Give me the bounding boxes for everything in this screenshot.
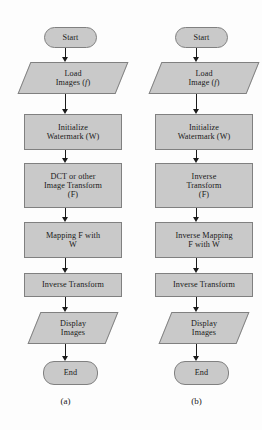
- node-b-2-process: InitializeWatermark (W): [155, 114, 253, 150]
- node-b-3-process: InverseTransform(F): [155, 163, 253, 208]
- node-label: Mapping F withW: [44, 231, 102, 249]
- node-a-2-process: InitializeWatermark (W): [24, 114, 122, 150]
- node-a-0-terminator: Start: [44, 27, 97, 48]
- node-label: DisplayImages: [189, 319, 219, 337]
- node-label: InverseTransform(F): [184, 172, 223, 200]
- node-label: Start: [192, 33, 212, 42]
- node-label: DCT or otherImage Transform(F): [42, 172, 104, 200]
- node-a-4-process: Mapping F withW: [24, 222, 122, 258]
- node-label: Inverse MappingF with W: [173, 231, 234, 249]
- connector-line: [65, 94, 66, 110]
- node-a-6-io: DisplayImages: [34, 312, 112, 344]
- node-label: DisplayImages: [58, 319, 88, 337]
- flowchart-figure: StartLoadImages (f)InitializeWatermark (…: [0, 0, 262, 430]
- node-b-4-process: Inverse MappingF with W: [155, 222, 253, 258]
- node-b-5-process: Inverse Transform: [155, 273, 253, 297]
- node-label: InitializeWatermark (W): [45, 123, 102, 141]
- node-b-1-io: LoadImage (f): [155, 62, 253, 94]
- flowchart-b: StartLoadImage (f)InitializeWatermark (W…: [131, 0, 262, 430]
- node-b-7-terminator: End: [174, 361, 229, 385]
- node-label: InitializeWatermark (W): [176, 123, 233, 141]
- node-b-6-io: DisplayImages: [165, 312, 243, 344]
- node-label: Inverse Transform: [171, 280, 237, 289]
- node-label: LoadImages (f): [54, 69, 92, 87]
- node-b-0-terminator: Start: [175, 27, 228, 48]
- node-label: LoadImage (f): [186, 69, 221, 87]
- node-label: End: [62, 368, 80, 377]
- node-a-1-io: LoadImages (f): [24, 62, 122, 94]
- chart-caption-a: (a): [0, 396, 131, 406]
- node-label: End: [193, 368, 211, 377]
- node-label: Inverse Transform: [40, 280, 106, 289]
- connector-line: [196, 94, 197, 110]
- node-a-3-process: DCT or otherImage Transform(F): [24, 163, 122, 208]
- flowchart-a: StartLoadImages (f)InitializeWatermark (…: [0, 0, 131, 430]
- node-a-5-process: Inverse Transform: [24, 273, 122, 297]
- node-label: Start: [61, 33, 81, 42]
- chart-caption-b: (b): [131, 396, 262, 406]
- node-a-7-terminator: End: [43, 361, 98, 385]
